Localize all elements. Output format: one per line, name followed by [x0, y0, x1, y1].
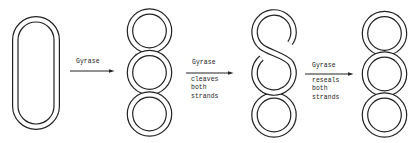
- arrowhead-icon: [228, 71, 234, 75]
- supercoiled-dna-three-loops: [130, 12, 169, 134]
- step-2-caption-line-3: strands: [191, 93, 219, 100]
- step-2-arrow: Gyrase cleaves both strands: [186, 59, 234, 100]
- step-2-label: Gyrase: [192, 59, 216, 66]
- relaxed-circular-dna: [15, 19, 56, 126]
- gyrase-supercoiling-diagram: Gyrase Gyrase cleaves both strands: [0, 0, 420, 143]
- step-2-caption-line-1: cleaves: [191, 76, 219, 83]
- step-3-caption-line-2: both: [312, 85, 328, 92]
- step-3-caption-line-1: reseals: [312, 77, 340, 84]
- diagram-svg: Gyrase Gyrase cleaves both strands: [0, 0, 420, 143]
- step-2-caption-line-2: both: [191, 84, 207, 91]
- step-3-arrow: Gyrase reseals both strands: [305, 62, 354, 101]
- oval-outer-strand: [15, 19, 56, 126]
- step-3-caption-line-3: strands: [312, 94, 340, 101]
- step-3-label: Gyrase: [312, 62, 336, 69]
- cleaved-dna-intermediate: [255, 12, 294, 134]
- step-1-arrow: Gyrase: [70, 58, 115, 73]
- arrowhead-icon: [348, 72, 354, 76]
- arrowhead-icon: [109, 69, 115, 73]
- resealed-supercoiled-dna: [365, 14, 404, 135]
- step-1-label: Gyrase: [76, 58, 100, 65]
- oval-gap: [15, 19, 56, 126]
